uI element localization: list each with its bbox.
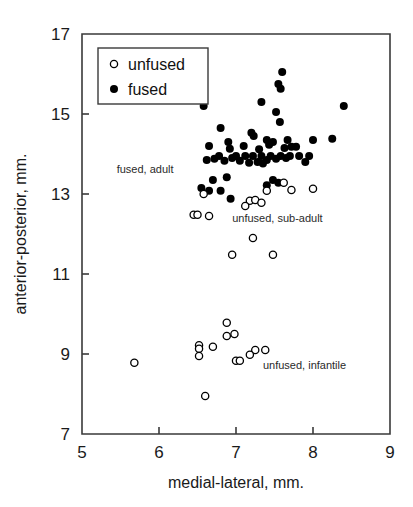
data-point-fused — [281, 144, 289, 152]
data-point-fused — [272, 155, 280, 163]
data-point-fused — [276, 118, 284, 126]
x-tick-label-8: 8 — [308, 443, 317, 462]
data-point-unfused — [223, 332, 230, 339]
data-point-unfused — [288, 186, 295, 193]
data-point-fused — [236, 157, 244, 165]
data-point-fused — [301, 158, 309, 166]
y-tick-label-13: 13 — [51, 185, 70, 204]
data-point-unfused — [262, 346, 269, 353]
data-point-unfused — [309, 185, 316, 192]
data-point-unfused — [202, 392, 209, 399]
y-tick-label-17: 17 — [51, 25, 70, 44]
annotation-label: fused, adult — [117, 163, 174, 175]
y-tick-label-11: 11 — [52, 265, 70, 284]
data-point-fused — [259, 160, 267, 168]
data-point-fused — [278, 68, 286, 76]
scatter-plot-figure: 791113151756789 fused, adultunfused, sub… — [0, 0, 413, 507]
data-point-unfused — [249, 234, 256, 241]
data-point-fused — [282, 154, 290, 162]
data-point-unfused — [269, 251, 276, 258]
data-point-fused — [226, 145, 234, 153]
plot-canvas: 791113151756789 fused, adultunfused, sub… — [0, 0, 413, 507]
x-tick-label-5: 5 — [77, 443, 86, 462]
data-point-unfused — [263, 187, 270, 194]
y-tick-label-9: 9 — [61, 345, 70, 364]
legend-label-unfused: unfused — [128, 56, 185, 73]
legend-marker-unfused — [110, 60, 117, 67]
y-tick-label-15: 15 — [51, 105, 70, 124]
data-point-unfused — [200, 190, 207, 197]
legend: unfusedfused — [98, 48, 208, 104]
data-point-unfused — [231, 330, 238, 337]
legend-marker-fused — [110, 85, 118, 93]
data-point-fused — [309, 136, 317, 144]
data-point-unfused — [246, 351, 253, 358]
data-point-fused — [223, 173, 231, 181]
data-point-fused — [210, 155, 218, 163]
data-point-fused — [292, 143, 300, 151]
plot-annotations: fused, adultunfused, sub-adultunfused, i… — [117, 163, 346, 371]
data-point-fused — [217, 187, 225, 195]
data-point-unfused — [258, 199, 265, 206]
data-point-fused — [250, 132, 258, 140]
y-axis-title: anterior-posterior, mm. — [12, 154, 29, 315]
data-point-fused — [284, 136, 292, 144]
x-tick-label-7: 7 — [231, 443, 240, 462]
data-points — [131, 68, 348, 400]
data-point-unfused — [209, 343, 216, 350]
legend-label-fused: fused — [128, 81, 167, 98]
data-point-unfused — [195, 352, 202, 359]
data-point-fused — [340, 102, 348, 110]
data-point-fused — [295, 152, 303, 160]
data-point-unfused — [205, 212, 212, 219]
data-point-unfused — [229, 251, 236, 258]
data-point-unfused — [131, 359, 138, 366]
x-tick-label-9: 9 — [385, 443, 394, 462]
data-point-unfused — [242, 202, 249, 209]
data-point-fused — [224, 138, 232, 146]
data-point-fused — [227, 195, 235, 203]
y-tick-label-7: 7 — [61, 425, 70, 444]
data-point-fused — [265, 141, 273, 149]
data-point-fused — [277, 85, 285, 93]
data-point-fused — [203, 156, 211, 164]
data-point-fused — [257, 98, 265, 106]
data-point-fused — [245, 159, 253, 167]
data-point-unfused — [223, 319, 230, 326]
x-tick-label-6: 6 — [154, 443, 163, 462]
data-point-fused — [220, 157, 228, 165]
data-point-unfused — [236, 357, 243, 364]
data-point-fused — [255, 145, 263, 153]
data-point-unfused — [280, 179, 287, 186]
data-point-unfused — [195, 345, 202, 352]
data-point-fused — [328, 135, 336, 143]
data-point-fused — [205, 142, 213, 150]
data-point-fused — [209, 176, 217, 184]
data-point-fused — [272, 108, 280, 116]
data-point-fused — [240, 142, 248, 150]
x-axis-title: medial-lateral, mm. — [168, 474, 304, 491]
annotation-label: unfused, sub-adult — [232, 212, 323, 224]
data-point-unfused — [194, 211, 201, 218]
data-point-fused — [217, 124, 225, 132]
annotation-label: unfused, infantile — [263, 359, 346, 371]
